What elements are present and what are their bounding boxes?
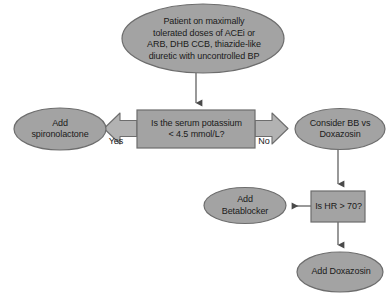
node-betablocker [204,188,286,224]
node-doxazosin [297,252,383,292]
node-bb-vs-doxazosin [295,109,385,150]
flowchart-diagram: Patient on maximally tolerated doses of … [0,0,388,299]
node-spironolactone [14,108,106,150]
edge-potassium-no-arrow [255,113,288,144]
flowchart-canvas [0,0,388,299]
node-potassium-decision [137,110,255,148]
edge-potassium-yes-arrow [104,113,137,144]
node-start [122,4,284,73]
node-heart-rate-decision [311,191,365,222]
